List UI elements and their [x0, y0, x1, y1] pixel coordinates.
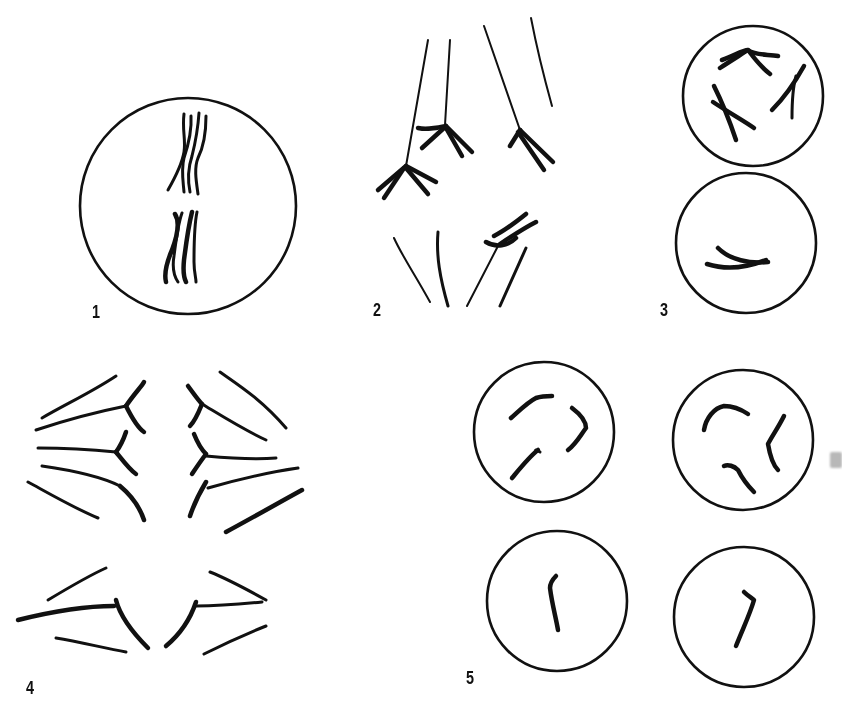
- cell-outline-top: [683, 26, 823, 166]
- panel-2-drawing: [378, 18, 553, 306]
- panel-3-drawing: [676, 26, 823, 313]
- panel-label-2: 2: [373, 300, 381, 321]
- panel-label-5: 5: [466, 668, 474, 689]
- panel-label-3: 3: [660, 300, 668, 321]
- cell-outline-top-left: [474, 362, 614, 502]
- cell-outline-bottom: [676, 173, 816, 313]
- cell-outline-bottom-right: [674, 547, 814, 687]
- chromosome-group-lower: [165, 212, 197, 282]
- cell-outline-top-right: [673, 370, 813, 510]
- scan-smudge: [830, 452, 842, 468]
- panel-1-drawing: [80, 98, 296, 314]
- panel-label-1: 1: [92, 302, 100, 323]
- panel-label-4: 4: [26, 678, 34, 699]
- chromosome-group-upper: [168, 113, 206, 194]
- cell-outline-bottom-left: [487, 531, 627, 671]
- panel-5-drawing: [474, 362, 814, 687]
- figure-canvas: [0, 0, 842, 705]
- panel-4-drawing: [18, 372, 302, 654]
